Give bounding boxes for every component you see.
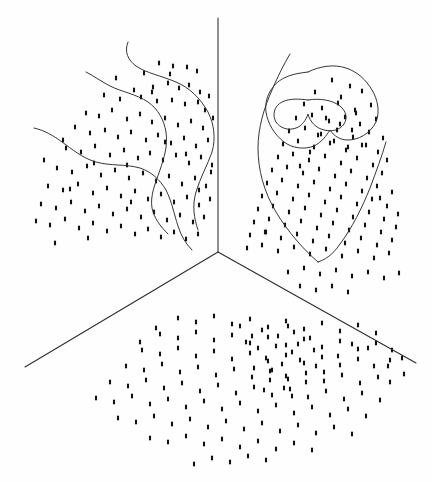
data-point-marker: [239, 401, 241, 406]
data-point-marker: [355, 111, 357, 116]
data-point-marker: [275, 403, 277, 408]
data-point-marker: [340, 195, 342, 200]
data-point-marker: [329, 141, 331, 146]
data-point-marker: [351, 342, 353, 347]
data-point-marker: [193, 462, 195, 467]
data-point-marker: [87, 236, 89, 241]
data-point-marker: [382, 136, 384, 141]
data-point-marker: [325, 389, 327, 394]
data-point-marker: [171, 422, 173, 427]
data-point-marker: [296, 232, 298, 237]
data-point-marker: [161, 362, 163, 367]
data-point-marker: [123, 148, 125, 153]
data-point-marker: [185, 405, 187, 410]
data-point-marker: [309, 150, 311, 155]
data-point-marker: [364, 223, 366, 228]
data-point-marker: [100, 173, 102, 178]
data-point-marker: [312, 239, 314, 244]
data-point-marker: [332, 221, 334, 226]
data-point-marker: [117, 416, 119, 421]
data-point-marker: [43, 158, 45, 163]
data-point-marker: [145, 138, 147, 143]
data-point-marker: [211, 456, 213, 461]
data-point-marker: [383, 217, 385, 222]
data-point-marker: [321, 355, 323, 360]
data-point-marker: [213, 338, 215, 343]
data-point-marker: [275, 344, 277, 349]
data-point-marker: [163, 386, 165, 391]
data-point-marker: [376, 243, 378, 248]
data-point-marker: [208, 94, 210, 99]
data-point-marker: [205, 184, 207, 189]
data-point-marker: [308, 193, 310, 198]
data-point-marker: [283, 386, 285, 391]
data-point-marker: [249, 341, 251, 346]
data-point-marker: [114, 168, 116, 173]
data-point-marker: [339, 339, 341, 344]
data-point-marker: [92, 221, 94, 226]
data-point-marker: [125, 364, 127, 369]
data-point-marker: [106, 229, 108, 234]
data-point-marker: [98, 114, 100, 119]
data-point-marker: [275, 447, 277, 452]
data-point-marker: [170, 141, 172, 146]
data-point-marker: [350, 169, 352, 174]
data-point-marker: [167, 397, 169, 402]
data-point-marker: [89, 131, 91, 136]
data-point-marker: [281, 362, 283, 367]
data-point-marker: [202, 126, 204, 131]
data-point-marker: [178, 86, 180, 91]
data-point-marker: [54, 241, 56, 246]
data-point-marker: [192, 220, 194, 225]
data-point-marker: [92, 191, 94, 196]
data-point-marker: [215, 373, 217, 378]
data-point-marker: [65, 146, 67, 151]
data-point-marker: [104, 128, 106, 133]
data-point-marker: [349, 84, 351, 89]
data-point-marker: [287, 324, 289, 329]
data-point-marker: [64, 217, 66, 222]
data-point-marker: [380, 230, 382, 235]
data-point-marker: [297, 184, 299, 189]
data-point-marker: [328, 119, 330, 124]
data-point-marker: [74, 125, 76, 130]
data-point-marker: [188, 161, 190, 166]
data-point-marker: [126, 207, 128, 212]
data-point-marker: [297, 139, 299, 144]
data-point-marker: [80, 150, 82, 155]
data-point-marker: [84, 209, 86, 214]
data-point-marker: [340, 95, 342, 100]
data-point-marker: [160, 235, 162, 240]
data-point-marker: [253, 366, 255, 371]
data-point-marker: [328, 234, 330, 239]
data-point-marker: [199, 90, 201, 95]
data-point-marker: [303, 266, 305, 271]
data-point-marker: [292, 152, 294, 157]
data-point-marker: [379, 196, 381, 201]
data-point-marker: [120, 194, 122, 199]
data-point-marker: [321, 345, 323, 350]
data-point-marker: [311, 405, 313, 410]
data-point-marker: [249, 233, 251, 238]
data-point-marker: [337, 354, 339, 359]
data-point-marker: [56, 166, 58, 171]
data-point-marker: [276, 191, 278, 196]
data-point-marker: [203, 215, 205, 220]
data-point-marker: [361, 189, 363, 194]
data-point-marker: [221, 407, 223, 412]
data-point-marker: [249, 317, 251, 322]
data-point-marker: [261, 328, 263, 333]
data-point-marker: [78, 226, 80, 231]
data-point-marker: [171, 98, 173, 103]
data-point-marker: [135, 420, 137, 425]
data-point-marker: [303, 361, 305, 366]
data-point-marker: [280, 236, 282, 241]
data-point-marker: [277, 155, 279, 160]
data-point-marker: [309, 336, 311, 341]
scatter-plot-figure: [0, 0, 432, 482]
data-point-marker: [85, 111, 87, 116]
data-point-marker: [313, 180, 315, 185]
data-point-marker: [318, 167, 320, 172]
data-point-marker: [285, 374, 287, 379]
data-point-marker: [336, 208, 338, 213]
